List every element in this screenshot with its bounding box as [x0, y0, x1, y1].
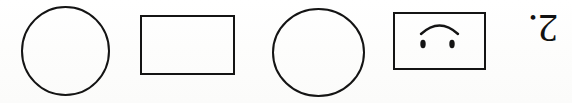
item-number: 2.	[520, 2, 566, 54]
circle-outline-path	[22, 7, 109, 95]
circle-outline-icon	[271, 7, 367, 99]
shape-circle-1[interactable]	[20, 5, 112, 98]
worksheet-page: 2.	[0, 0, 572, 103]
eye-right-icon	[449, 40, 454, 48]
eye-left-icon	[420, 40, 425, 48]
item-number-label: 2.	[528, 8, 558, 48]
shape-circle-3[interactable]	[271, 7, 367, 99]
sad-face-box-icon	[392, 11, 489, 73]
face-box-outline-path	[394, 13, 485, 69]
shape-rectangle-2[interactable]	[139, 14, 237, 77]
circle-outline-icon	[20, 5, 112, 98]
shape-face-box-4[interactable]	[392, 11, 489, 73]
arc-mouth-icon	[421, 26, 458, 35]
rectangle-outline-icon	[139, 14, 237, 77]
circle-outline-path	[273, 9, 364, 96]
rectangle-outline-path	[141, 16, 234, 74]
